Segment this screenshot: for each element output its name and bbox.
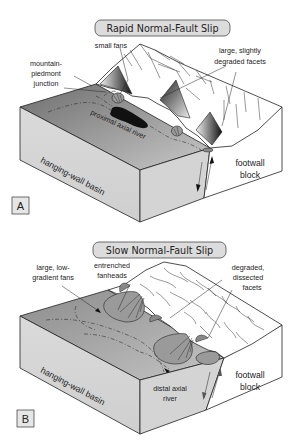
label-footwall: footwall [235,158,264,168]
panel-a-title-box: Rapid Normal-Fault Slip [95,20,230,36]
label-small-fans: small fans [95,41,128,50]
panel-a-leader-mountain-piedmont [74,76,92,86]
label-dissected: dissected [233,273,263,282]
panel-b: Slow Normal-Fault Slip [17,242,282,434]
fault-slip-diagram: Rapid Normal-Fault Slip [0,0,296,448]
panel-a: Rapid Normal-Fault Slip [12,20,282,222]
label-block: block [240,170,261,180]
label-entrenched: entrenched [94,261,130,270]
panel-b-title-box: Slow Normal-Fault Slip [93,242,226,258]
panel-a-title: Rapid Normal-Fault Slip [107,23,219,34]
panel-b-title: Slow Normal-Fault Slip [106,245,213,256]
panel-a-letter: A [17,200,25,212]
label-facets-line2: degraded facets [214,57,266,66]
label-fanheads: fanheads [97,271,127,280]
label-facets-line1: large, slightly [219,46,261,55]
label-degraded: degraded, [232,263,264,272]
panel-a-outlet [203,148,213,152]
label-distal-axial: distal axial [153,384,187,393]
label-piedmont: piedmont [31,69,61,78]
panel-b-letter: B [22,413,29,425]
panel-a-small-fan [112,93,124,103]
label-junction: junction [33,79,59,88]
label-footwall-b: footwall [235,370,264,380]
label-river: river [163,394,178,403]
label-facets: facets [242,283,262,292]
label-gradient-fans: gradient fans [32,273,74,282]
label-large-low: large, low- [36,263,70,272]
label-mountain: mountain- [30,59,63,68]
label-block-b: block [240,382,261,392]
